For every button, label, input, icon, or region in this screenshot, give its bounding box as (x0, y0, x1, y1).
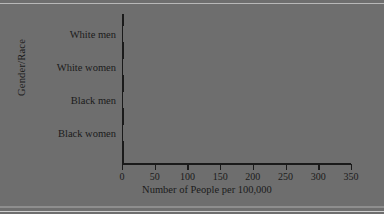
bar-white-men (123, 26, 218, 42)
bar-black-men (123, 92, 304, 108)
bar-chart-figure: Gender/Race White men White women Black … (0, 0, 384, 214)
bar-black-women (123, 125, 268, 141)
category-label-black-women: Black women (6, 128, 116, 139)
top-divider (0, 3, 384, 4)
x-tick-300 (318, 164, 319, 170)
x-tick-100 (187, 164, 188, 170)
category-label-group: White men White women Black men Black wo… (0, 14, 116, 163)
bottom-divider-secondary (0, 211, 384, 212)
x-tick-150 (220, 164, 221, 170)
category-label-white-men: White men (6, 29, 116, 40)
x-tick-350 (351, 164, 352, 170)
category-label-white-women: White women (6, 62, 116, 73)
category-label-black-men: Black men (6, 95, 116, 106)
x-axis-line (122, 163, 351, 165)
x-tick-0 (122, 164, 123, 170)
bottom-divider (0, 206, 384, 208)
x-tick-200 (253, 164, 254, 170)
plot-area: 0 50 100 150 200 250 300 350 (122, 14, 351, 163)
x-tick-250 (286, 164, 287, 170)
x-tick-label-350: 350 (331, 171, 371, 182)
x-tick-50 (155, 164, 156, 170)
x-axis-title: Number of People per 100,000 (0, 184, 384, 195)
bar-white-women (123, 59, 201, 75)
